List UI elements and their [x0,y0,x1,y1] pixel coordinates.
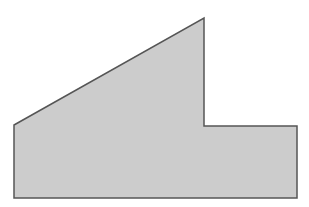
composite-polygon [14,18,297,198]
composite-shape-figure [0,0,309,207]
